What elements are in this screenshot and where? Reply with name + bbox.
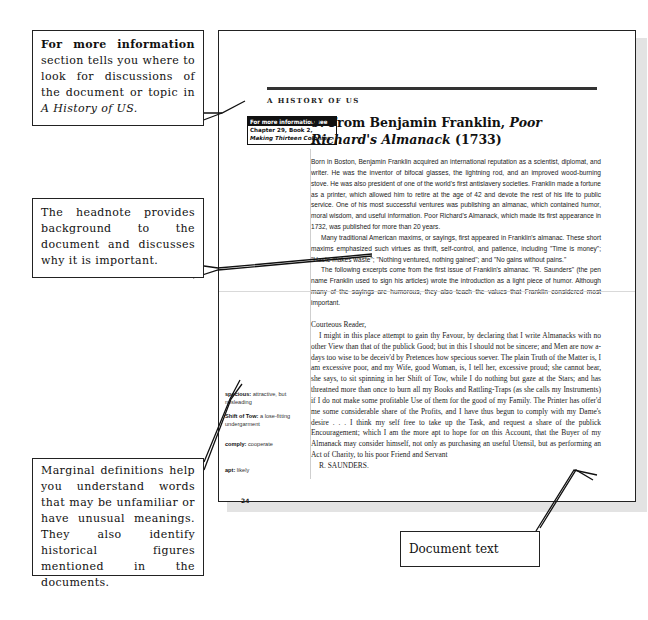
document-body: I might in this place attempt to gain th… (311, 331, 601, 461)
margin-definition: Shift of Tow: a lose-fitting undergarmen… (225, 412, 305, 428)
document-title-year: (1733) (451, 132, 502, 147)
callout-more-info-bold: For more information (41, 38, 195, 51)
definition-text: likely (235, 467, 249, 473)
headnote-paragraph: Born in Boston, Benjamin Franklin acquir… (311, 157, 601, 233)
document-title: 9. From Benjamin Franklin, Poor Richard'… (311, 114, 611, 148)
definition-text: cooperate (246, 441, 272, 447)
definition-term: specious: (225, 391, 251, 397)
definition-term: apt: (225, 467, 235, 473)
definition-term: Shift of Tow: (225, 413, 258, 419)
margin-definition: comply: cooperate (225, 440, 305, 448)
page-number: 24 (241, 497, 249, 504)
callout-more-info-text: For more information section tells you w… (41, 37, 195, 117)
document-signature: R. SAUNDERS. (311, 461, 601, 472)
callout-document-text: Document text (400, 531, 540, 567)
callout-more-info-body: section tells you where to look for disc… (41, 54, 195, 99)
book-page: A HISTORY OF US For more information see… (218, 30, 636, 502)
callout-definitions: Marginal definitions help you understand… (32, 458, 204, 576)
callout-headnote: The headnote provides background to the … (32, 198, 204, 278)
margin-definition: apt: likely (225, 466, 305, 474)
callout-more-info-italic: A History of US. (41, 102, 138, 115)
callout-document-text-label: Document text (409, 540, 531, 558)
header-rule (267, 87, 597, 90)
more-info-chapter: Chapter 29, Book 2, (250, 127, 313, 133)
headnote-paragraph: Many traditional American maxims, or say… (311, 233, 601, 266)
callout-definitions-text: Marginal definitions help you understand… (41, 463, 195, 591)
section-divider (219, 291, 635, 292)
document-text: Courteous Reader, I might in this place … (311, 320, 601, 472)
definition-term: comply: (225, 441, 246, 447)
running-head: A HISTORY OF US (267, 96, 360, 105)
margin-definition: specious: attractive, but misleading (225, 390, 305, 406)
headnote-paragraph: The following excerpts come from the fir… (311, 265, 601, 308)
callout-more-info: For more information section tells you w… (32, 30, 204, 126)
document-salutation: Courteous Reader, (311, 320, 601, 331)
callout-headnote-text: The headnote provides background to the … (41, 205, 195, 269)
headnote: Born in Boston, Benjamin Franklin acquir… (311, 157, 601, 309)
document-title-prefix: 9. From Benjamin Franklin, (311, 115, 510, 130)
